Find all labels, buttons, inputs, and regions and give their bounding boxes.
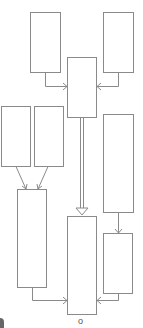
edge-mid-left-a-to-left-tall	[16, 167, 26, 190]
edge-top-left-to-center	[46, 73, 68, 87]
node-right-small	[104, 234, 133, 294]
flowchart-canvas	[0, 0, 143, 328]
node-top-left	[31, 13, 61, 73]
edge-center-upper-to-center-lower	[76, 118, 88, 216]
node-top-right	[104, 13, 134, 73]
node-mid-left-b	[35, 107, 64, 167]
node-center-lower	[68, 217, 97, 315]
corner-shape	[0, 318, 4, 328]
node-center-upper	[68, 58, 97, 118]
node-mid-left-a	[2, 107, 31, 167]
node-right-tall	[104, 115, 134, 213]
node-left-tall	[18, 190, 47, 288]
edge-top-right-to-center	[97, 73, 119, 87]
edge-mid-left-b-to-left-tall	[38, 167, 48, 190]
footer-mark: o	[78, 316, 83, 326]
edge-left-tall-to-center-lower	[33, 288, 68, 301]
edge-right-small-to-center-lower	[97, 294, 119, 301]
